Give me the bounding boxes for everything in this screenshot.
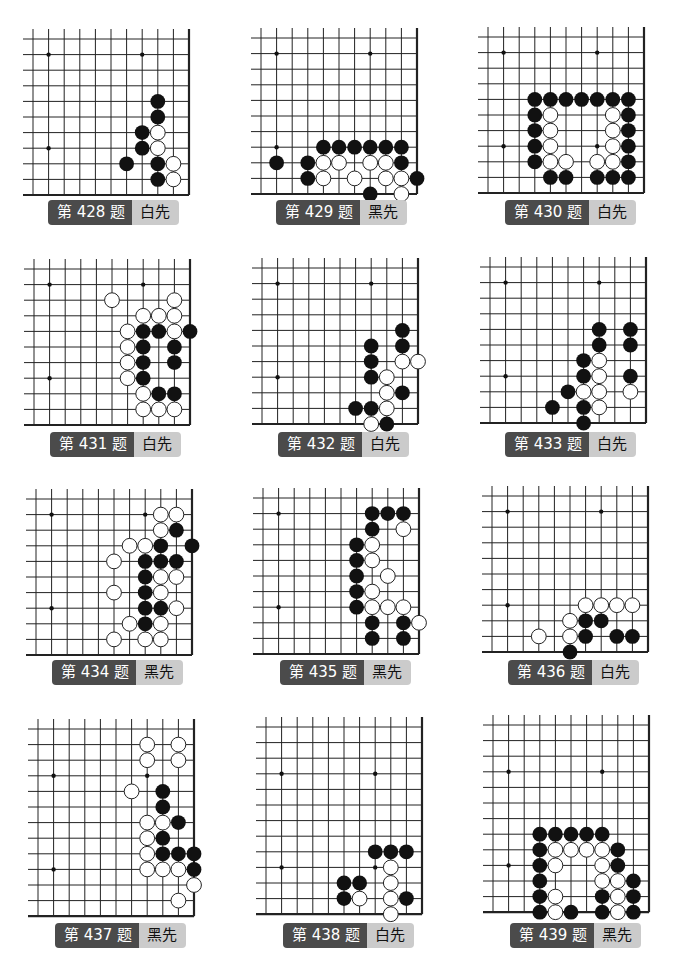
black-stone [610, 858, 625, 873]
black-stone [595, 889, 610, 904]
black-stone [626, 889, 641, 904]
white-stone [610, 905, 625, 920]
white-stone [595, 858, 610, 873]
problem-number: 第 439 题 [510, 923, 594, 948]
star-point [506, 770, 510, 774]
white-stone [610, 889, 625, 904]
star-point [506, 863, 510, 867]
white-stone [595, 842, 610, 857]
go-board [0, 0, 673, 963]
white-stone [548, 842, 563, 857]
black-stone [564, 827, 579, 842]
white-stone [595, 874, 610, 889]
black-stone [532, 842, 547, 857]
black-stone [626, 874, 641, 889]
black-stone [532, 905, 547, 920]
white-stone [564, 842, 579, 857]
black-stone [595, 905, 610, 920]
black-stone [610, 842, 625, 857]
white-stone [610, 874, 625, 889]
to-play-indicator: 黑先 [594, 923, 641, 948]
white-stone [579, 842, 594, 857]
black-stone [579, 827, 594, 842]
black-stone [548, 827, 563, 842]
white-stone [548, 905, 563, 920]
black-stone [595, 827, 610, 842]
black-stone [626, 905, 641, 920]
black-stone [532, 874, 547, 889]
problem-label: 第 439 题黑先 [510, 923, 641, 948]
black-stone [564, 905, 579, 920]
white-stone [548, 858, 563, 873]
black-stone [532, 858, 547, 873]
black-stone [532, 827, 547, 842]
white-stone [548, 889, 563, 904]
black-stone [532, 889, 547, 904]
star-point [600, 770, 604, 774]
